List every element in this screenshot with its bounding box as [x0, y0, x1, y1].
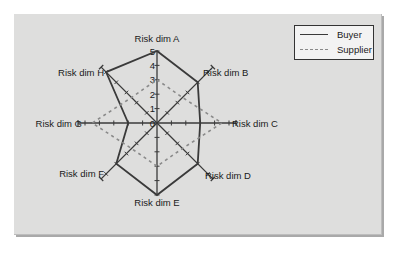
- axis-label-c: Risk dim C: [232, 118, 278, 129]
- radial-tick-label: 0: [150, 118, 155, 129]
- radial-tick-label: 2: [150, 89, 155, 100]
- axis-label-g: Risk dim G: [36, 118, 82, 129]
- axis-line: [101, 67, 157, 123]
- axis-label-f: Risk dim F: [59, 168, 104, 179]
- axis-label-a: Risk dim A: [135, 33, 181, 44]
- radial-tick-label: 5: [150, 46, 155, 57]
- axis-label-e: Risk dim E: [134, 197, 179, 208]
- axis-label-h: Risk dim H: [58, 67, 104, 78]
- legend-item-supplier: Supplier: [295, 42, 373, 57]
- legend-item-buyer: Buyer: [295, 27, 373, 42]
- radial-tick-label: 4: [150, 60, 155, 71]
- dashed-line-icon: [300, 49, 328, 50]
- axis-label-b: Risk dim B: [203, 67, 248, 78]
- axis-line: [101, 123, 157, 179]
- legend-label: Buyer: [337, 29, 362, 40]
- legend: Buyer Supplier: [294, 25, 374, 60]
- legend-label: Supplier: [337, 44, 372, 55]
- radial-tick-label: 1: [150, 103, 155, 114]
- solid-line-icon: [300, 34, 328, 35]
- axis-label-d: Risk dim D: [205, 170, 251, 181]
